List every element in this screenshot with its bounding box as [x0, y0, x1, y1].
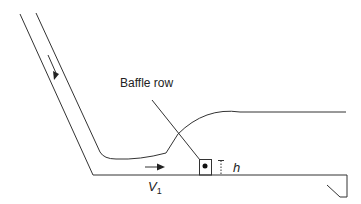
chute-outer-wall [20, 14, 347, 175]
water-surface-profile [36, 13, 346, 159]
basin-flow-arrow-icon [145, 164, 165, 171]
baffle-block [200, 160, 212, 176]
baffle-leader-line [152, 100, 200, 160]
end-sill [327, 175, 347, 197]
baffle-row-label: Baffle row [120, 76, 173, 90]
height-dimension-marker [218, 161, 224, 176]
velocity-label: V1 [148, 179, 162, 196]
height-label: h [233, 160, 240, 175]
stilling-basin-diagram: Baffle row V1 h [0, 0, 361, 204]
